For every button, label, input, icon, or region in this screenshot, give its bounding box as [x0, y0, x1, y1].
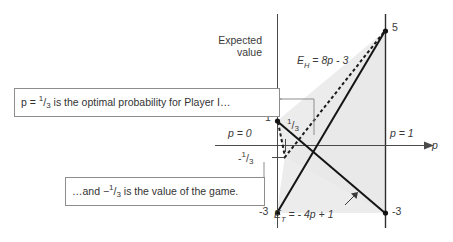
callout-value-prefix: …and −	[72, 185, 109, 197]
callout-optimal-fraction: 1/3	[39, 92, 51, 113]
equation-et-symbol: E	[274, 208, 281, 220]
x-axis-title: p	[432, 140, 438, 151]
label-y-neg-three-right: -3	[392, 206, 401, 217]
callout-value-fraction: 1/3	[109, 181, 121, 202]
callout-optimal-denominator: 3	[46, 101, 50, 110]
point-1-5	[383, 28, 388, 33]
equation-eh-subscript: H	[304, 61, 309, 70]
figure-canvas: Expected value p p = 0 p = 1 1 -3 -3 5 1…	[0, 0, 453, 242]
equation-et-subscript: T	[281, 215, 286, 224]
callout-optimal-probability: p = 1/3 is the optimal probability for P…	[14, 88, 280, 117]
equation-eh-body: = 8p - 3	[312, 54, 348, 66]
equation-et: ET = - 4p + 1	[274, 209, 333, 223]
neg-one-third-fraction: 1/3	[242, 151, 254, 167]
label-p-equals-one: p = 1	[390, 128, 414, 139]
y-axis-title-line1: Expected	[218, 34, 262, 46]
point-0-1	[275, 118, 280, 123]
callout-value-suffix: is the value of the game.	[121, 185, 238, 197]
callout-value-of-game: …and −1/3 is the value of the game.	[65, 177, 265, 206]
one-third-fraction: 1/3	[287, 118, 299, 134]
y-axis-title-line2: value	[237, 46, 262, 58]
neg-one-third-numerator: 1	[242, 150, 246, 159]
one-third-numerator: 1	[287, 117, 291, 126]
neg-one-third-denominator: 3	[249, 157, 253, 166]
callout-optimal-numerator: 1	[39, 94, 43, 103]
callout-optimal-suffix: is the optimal probability for Player I…	[51, 96, 231, 108]
label-neg-one-third: -1/3	[238, 151, 253, 167]
label-y-five: 5	[392, 22, 398, 33]
equation-eh-symbol: E	[297, 54, 304, 66]
one-third-denominator: 3	[294, 124, 298, 133]
callout-value-numerator: 1	[109, 183, 113, 192]
label-y-neg-three-left: -3	[259, 206, 268, 217]
point-1-neg3	[383, 210, 388, 215]
callout-optimal-prefix: p =	[21, 96, 39, 108]
equation-eh: EH = 8p - 3	[297, 55, 348, 69]
y-axis-title: Expected value	[196, 34, 262, 58]
callout-value-denominator: 3	[116, 190, 120, 199]
label-p-equals-zero: p = 0	[228, 128, 252, 139]
label-one-third: 1/3	[287, 118, 299, 134]
equation-et-body: = - 4p + 1	[289, 208, 334, 220]
